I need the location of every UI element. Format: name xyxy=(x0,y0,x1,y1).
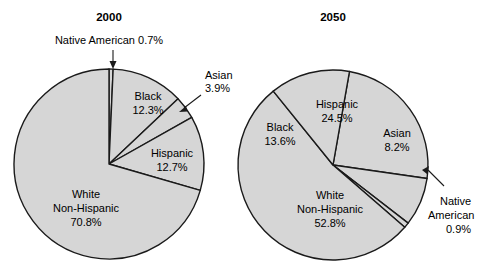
pie-2050-asian-label: Asian xyxy=(383,127,411,139)
pie-2050-title: 2050 xyxy=(320,11,346,23)
pie-2000-white-label-line2: Non-Hispanic xyxy=(53,202,120,214)
pie-2000-native-american-arrowhead-icon xyxy=(110,61,117,69)
pie-2000-asian-value: 3.9% xyxy=(205,82,230,94)
figure-canvas: 2000 Native American 0.7% Black 12.3% As… xyxy=(0,0,489,279)
pie-2000-asian-leader-line xyxy=(184,95,201,108)
pie-2050-white-label-line2: Non-Hispanic xyxy=(297,203,364,215)
pie-2050-asian-value: 8.2% xyxy=(384,141,409,153)
pie-2000-white-label-line1: White xyxy=(72,188,100,200)
pie-2000-white-value: 70.8% xyxy=(70,216,101,228)
pie-2050-white-label-line1: White xyxy=(316,189,344,201)
pie-2050-native-american-leader-line xyxy=(428,170,444,186)
pie-chart-2050: 2050 Hispanic 24.5% Asian 8.2% Black 13.… xyxy=(238,11,474,260)
pie-2050-black-label: Black xyxy=(267,121,294,133)
pie-2000-hispanic-label: Hispanic xyxy=(151,147,194,159)
pie-2000-black-value: 12.3% xyxy=(132,104,163,116)
pie-2000-title: 2000 xyxy=(96,11,122,23)
pie-2050-hispanic-value: 24.5% xyxy=(321,112,352,124)
pie-2050-white-value: 52.8% xyxy=(314,217,345,229)
pie-2050-native-american-value: 0.9% xyxy=(446,223,471,235)
pie-2000-black-label: Black xyxy=(135,90,162,102)
pie-2050-native-american-label-line2: American xyxy=(428,209,474,221)
pie-2000-native-american-callout-label: Native American 0.7% xyxy=(55,34,163,46)
pie-2000-asian-label: Asian xyxy=(205,69,233,81)
pie-2050-hispanic-label: Hispanic xyxy=(316,98,359,110)
pie-2000-hispanic-value: 12.7% xyxy=(156,161,187,173)
pie-chart-2000: 2000 Native American 0.7% Black 12.3% As… xyxy=(14,11,233,259)
two-pie-chart-figure: 2000 Native American 0.7% Black 12.3% As… xyxy=(0,0,489,279)
pie-2050-native-american-label-line1: Native xyxy=(440,195,471,207)
pie-2050-black-value: 13.6% xyxy=(264,135,295,147)
